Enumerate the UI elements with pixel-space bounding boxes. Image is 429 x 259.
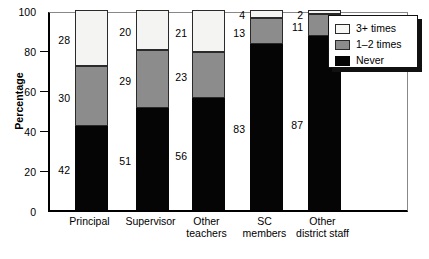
bar-value-label: 83	[219, 124, 245, 135]
x-axis-label-line: Other	[280, 216, 366, 228]
y-tick-label: 60	[0, 87, 36, 98]
bar-value-label: 4	[219, 10, 245, 21]
bar-value-label: 87	[277, 120, 303, 131]
legend-swatch	[335, 24, 350, 34]
legend-item[interactable]: 3+ times	[335, 21, 411, 36]
bar-stack[interactable]	[192, 10, 225, 210]
bar-value-label: 20	[105, 27, 131, 38]
bar-segment[interactable]	[75, 126, 108, 210]
bar-value-label: 29	[105, 76, 131, 87]
y-tick-mark	[40, 131, 48, 132]
y-tick-label: 0	[0, 207, 36, 218]
y-tick-label: 20	[0, 167, 36, 178]
bar-value-label: 28	[44, 35, 70, 46]
y-tick-label: 100	[0, 7, 36, 18]
y-tick-label: 80	[0, 47, 36, 58]
bar-segment[interactable]	[75, 66, 108, 126]
legend-label: Never	[356, 55, 384, 66]
legend-label: 1–2 times	[356, 39, 402, 50]
y-tick-mark	[40, 51, 48, 52]
bar-value-label: 13	[219, 28, 245, 39]
bar-value-label: 11	[277, 22, 303, 33]
bar-stack[interactable]	[136, 10, 169, 210]
bar-segment[interactable]	[192, 52, 225, 98]
bar-value-label: 2	[277, 10, 303, 21]
stacked-bar-chart: Percentage 020406080100 4230285129205623…	[0, 0, 429, 259]
legend-label: 3+ times	[356, 23, 396, 34]
bar-value-label: 56	[161, 151, 187, 162]
y-tick-label: 40	[0, 127, 36, 138]
bar-value-label: 21	[161, 28, 187, 39]
x-axis-label-line: district staff	[280, 228, 366, 240]
bar-value-label: 23	[161, 72, 187, 83]
bar-segment[interactable]	[308, 10, 341, 14]
bar-value-label: 51	[105, 156, 131, 167]
bar-value-label: 30	[44, 93, 70, 104]
legend-swatch	[335, 56, 350, 66]
bar-stack[interactable]	[250, 10, 283, 210]
legend-swatch	[335, 40, 350, 50]
bar-value-label: 42	[44, 165, 70, 176]
x-axis-label: Otherdistrict staff	[280, 216, 366, 239]
legend-item[interactable]: 1–2 times	[335, 37, 411, 52]
bar-segment[interactable]	[192, 98, 225, 210]
legend-item[interactable]: Never	[335, 53, 411, 68]
legend: 3+ times1–2 timesNever	[328, 15, 418, 68]
bar-segment[interactable]	[75, 10, 108, 66]
bar-stack[interactable]	[75, 10, 108, 210]
